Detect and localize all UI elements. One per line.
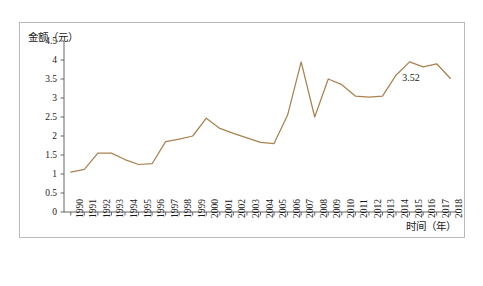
x-tick-label: 1998 [183, 199, 193, 218]
x-tick-label: 1993 [115, 199, 125, 218]
x-axis-label: 时间（年） [406, 218, 456, 233]
x-tick-label: 1994 [129, 199, 139, 218]
x-tick-label: 2004 [265, 199, 275, 218]
chart-figure: 金额（元） 00.511.522.533.544.5 1990199119921… [19, 22, 465, 238]
x-tick-label: 1992 [102, 199, 112, 218]
x-tick-label: 2002 [237, 199, 247, 218]
y-tick-label: 4.5 [20, 36, 57, 46]
y-tick-label: 3.5 [20, 74, 57, 84]
x-tick-label: 1996 [156, 199, 166, 218]
x-tick-label: 2016 [427, 199, 437, 218]
x-tick-label: 1997 [170, 199, 180, 218]
y-tick-label: 1.5 [20, 150, 57, 160]
x-tick-label: 2005 [278, 199, 288, 218]
x-tick-label: 2010 [346, 199, 356, 218]
x-tick-label: 2014 [400, 199, 410, 218]
axes [64, 41, 457, 212]
x-tick-label: 2000 [210, 199, 220, 218]
x-tick-label: 1999 [197, 199, 207, 218]
x-tick-label: 1990 [75, 199, 85, 218]
x-tick-label: 2001 [224, 199, 234, 218]
x-tick-label: 2003 [251, 199, 261, 218]
y-tick-label: 2.5 [20, 112, 57, 122]
x-tick-label: 2015 [414, 199, 424, 218]
x-tick-label: 2009 [332, 199, 342, 218]
y-tick-label: 1 [20, 169, 57, 179]
x-tick-label: 1991 [88, 199, 98, 218]
data-series-line [71, 62, 450, 172]
x-tick-label: 2011 [359, 199, 369, 218]
y-tick-label: 3 [20, 93, 57, 103]
x-tick-label: 2008 [319, 199, 329, 218]
y-axis-ticks [61, 41, 65, 212]
x-tick-label: 2006 [292, 199, 302, 218]
y-tick-label: 2 [20, 131, 57, 141]
y-tick-label: 4 [20, 55, 57, 65]
x-tick-label: 2007 [305, 199, 315, 218]
x-tick-label: 2012 [373, 199, 383, 218]
x-tick-label: 2017 [441, 199, 451, 218]
y-tick-label: 0 [20, 207, 57, 217]
x-tick-label: 2018 [454, 199, 464, 218]
y-tick-label: 0.5 [20, 188, 57, 198]
x-tick-label: 2013 [386, 199, 396, 218]
data-point-label: 3.52 [402, 72, 420, 83]
x-tick-label: 1995 [143, 199, 153, 218]
